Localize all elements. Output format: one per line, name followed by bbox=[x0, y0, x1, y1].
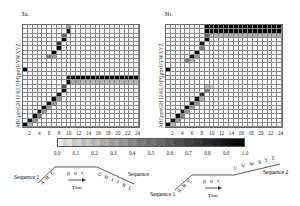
time-arrow-icon bbox=[68, 178, 86, 182]
letter: B bbox=[44, 174, 50, 180]
letter: Z bbox=[271, 156, 275, 161]
x-tick: 20 bbox=[258, 130, 263, 136]
y-axis-label-3a: ABCρστGH IJ KLOPQρστUVWXYZ bbox=[15, 43, 21, 128]
x-tick: 16 bbox=[239, 130, 244, 136]
letter: G bbox=[97, 171, 103, 177]
heatmap-3a bbox=[22, 24, 140, 128]
seq-b-right-label: Sequence 2 bbox=[263, 169, 288, 175]
x-tick: 22 bbox=[268, 130, 273, 136]
x-tick: 14 bbox=[229, 130, 234, 136]
letter: V bbox=[241, 163, 246, 169]
x-tick: 10 bbox=[209, 130, 214, 136]
x-tick: 12 bbox=[76, 130, 81, 136]
x-tick: 8 bbox=[201, 130, 204, 136]
y-axis-label-3b: ABCρστGH IJ KLOPQρστUVWXYZ bbox=[158, 43, 164, 128]
letter: σ bbox=[210, 178, 213, 184]
panel-label-3a: 3a. bbox=[21, 10, 29, 18]
x-tick: 2 bbox=[28, 130, 31, 136]
x-tick: 16 bbox=[96, 130, 101, 136]
x-tick: 18 bbox=[248, 130, 253, 136]
letter: A bbox=[39, 179, 45, 185]
letter: H bbox=[104, 174, 110, 180]
colorbar-segment bbox=[240, 139, 245, 146]
sequence-path-b bbox=[175, 164, 280, 190]
letter: C bbox=[186, 177, 192, 183]
letter: C bbox=[49, 169, 55, 175]
time-label: Time bbox=[208, 193, 219, 198]
panel-label-3b: 3b. bbox=[164, 10, 173, 18]
seq-b-left-label: Sequence 1 bbox=[150, 191, 175, 197]
letter: B bbox=[181, 182, 187, 188]
letter: τ bbox=[81, 170, 84, 176]
time-label: Time bbox=[72, 185, 83, 190]
x-tick: 4 bbox=[38, 130, 41, 136]
letter: I bbox=[111, 177, 115, 182]
letter: L bbox=[128, 185, 133, 191]
x-tick: 2 bbox=[171, 130, 174, 136]
letter: W bbox=[249, 161, 255, 167]
x-tick: 20 bbox=[115, 130, 120, 136]
heatmap-cell bbox=[134, 123, 139, 127]
time-arrow-icon bbox=[205, 186, 222, 190]
letter: X bbox=[257, 159, 262, 165]
letter: ρ bbox=[203, 178, 206, 184]
letter: Y bbox=[264, 157, 269, 163]
x-tick: 24 bbox=[135, 130, 140, 136]
letter: U bbox=[233, 165, 238, 171]
heatmap-cell bbox=[277, 123, 282, 127]
letter: σ bbox=[74, 170, 77, 176]
colorbar bbox=[57, 138, 245, 147]
x-tick: 10 bbox=[66, 130, 71, 136]
x-tick: 22 bbox=[125, 130, 130, 136]
sequence-diagram-b: Sequence 1 Sequence 2 A B C ρ σ τ U V W … bbox=[150, 156, 300, 206]
letter: K bbox=[122, 182, 128, 188]
letter: A bbox=[176, 187, 182, 193]
sequence-diagram-a: Sequence 1 Sequence A B C ρ σ τ G H I J … bbox=[0, 156, 150, 206]
x-tick: 6 bbox=[191, 130, 194, 136]
x-tick: 4 bbox=[181, 130, 184, 136]
x-tick: 24 bbox=[278, 130, 283, 136]
letter: τ bbox=[217, 178, 220, 184]
seq-a-right-label: Sequence bbox=[128, 171, 150, 177]
letter: ρ bbox=[67, 170, 70, 176]
letter: J bbox=[116, 179, 120, 184]
x-tick: 18 bbox=[105, 130, 110, 136]
x-tick: 6 bbox=[48, 130, 51, 136]
heatmap-3b bbox=[165, 24, 283, 128]
x-tick: 12 bbox=[219, 130, 224, 136]
x-tick: 8 bbox=[58, 130, 61, 136]
seq-a-left-label: Sequence 1 bbox=[14, 174, 39, 180]
x-tick: 14 bbox=[86, 130, 91, 136]
